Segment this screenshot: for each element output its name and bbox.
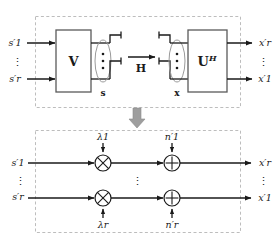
channel-label: H: [136, 62, 146, 75]
bottom-middle-vdots: ⋮: [132, 175, 143, 188]
bottom-output-vdots: ⋮: [258, 175, 269, 188]
rx-antenna-icon-r: [159, 58, 170, 80]
rowr-adder: [164, 190, 180, 206]
rowr-multiplier: [95, 190, 111, 206]
top-input-label-1: s′1: [8, 37, 21, 48]
tx-antenna-icon-r: [110, 58, 121, 80]
top-input-label-r: s′r: [9, 73, 22, 84]
row1-gain-label: λ1: [96, 131, 109, 142]
tx-antenna-icon-1: [110, 32, 121, 44]
block-diagram-svg: s′1 s′r ⋮ V s H x UH: [0, 0, 278, 241]
tx-dot-1: [102, 53, 105, 56]
row1-adder: [164, 155, 180, 171]
top-input-vdots: ⋮: [12, 56, 23, 69]
transmit-vector-label: s: [100, 88, 105, 98]
row1-multiplier: [95, 155, 111, 171]
rowr-gain-label: λr: [97, 219, 110, 230]
rx-dot-2: [176, 60, 179, 63]
combiner-block-base: U: [198, 54, 210, 69]
combiner-block-superscript: H: [208, 53, 217, 63]
bottom-input-label-1: s′1: [11, 157, 24, 168]
rx-dot-1: [176, 53, 179, 56]
row1-noise-label: n′1: [165, 131, 179, 142]
top-output-label-r: x′r: [259, 37, 273, 48]
figure-root: s′1 s′r ⋮ V s H x UH: [0, 0, 278, 241]
equivalence-arrow-icon: [129, 108, 145, 128]
top-output-label-1: x′1: [258, 73, 272, 84]
rx-dot-3: [176, 67, 179, 70]
bottom-input-vdots: ⋮: [15, 175, 26, 188]
bottom-output-label-r: x′r: [259, 157, 273, 168]
top-output-vdots: ⋮: [258, 56, 269, 69]
bottom-input-label-r: s′r: [12, 191, 25, 202]
tx-dot-3: [102, 67, 105, 70]
precoder-block-label: V: [67, 54, 79, 69]
tx-dot-2: [102, 60, 105, 63]
rowr-noise-label: n′r: [166, 219, 180, 230]
rx-antenna-icon-1: [159, 32, 170, 44]
receive-vector-label: x: [174, 88, 180, 98]
bottom-output-label-1: x′1: [258, 192, 272, 203]
